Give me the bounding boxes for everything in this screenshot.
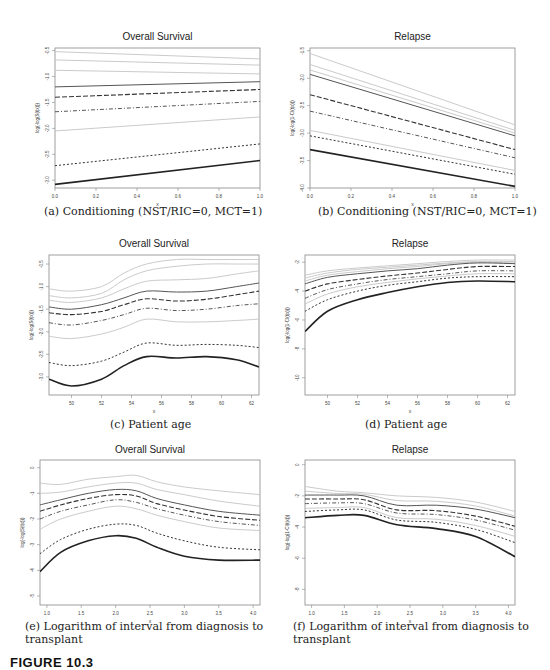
series-line-q1 (40, 475, 260, 495)
chart-svg: Overall Survival50525456586062x-0.5-1.0-… (0, 220, 275, 440)
series-line-q3 (55, 70, 260, 74)
caption-a: (a) Conditioning (NST/RIC=0, MCT=1) (44, 205, 262, 218)
series-line-q3 (310, 70, 515, 133)
y-tick-label: -2 (295, 260, 300, 264)
series-line-q6 (40, 506, 260, 530)
series-line-q2 (49, 264, 259, 298)
y-tick-label: -3 (30, 542, 35, 546)
x-tick-label: 0.4 (389, 194, 396, 199)
y-tick-label: -4 (30, 568, 35, 572)
y-tick-label: -1.0 (39, 282, 44, 290)
series-line-q8 (305, 515, 515, 557)
y-tick-label: -5 (30, 594, 35, 598)
series-line-q4 (310, 74, 515, 135)
series-line-q9 (305, 281, 515, 332)
x-tick-label: 62 (249, 401, 255, 406)
x-tick-label: 0.0 (52, 194, 59, 199)
series-line-q5 (49, 291, 259, 315)
x-tick-label: 1.0 (512, 194, 519, 199)
y-tick-label: -1 (30, 491, 35, 495)
series-line-q6 (305, 271, 515, 299)
y-tick-label: -3.0 (39, 373, 44, 381)
y-tick-label: -3.0 (300, 129, 305, 137)
x-tick-label: 0.6 (430, 194, 437, 199)
chart-panel-b: Relapse0.00.20.40.60.81.0x-1.5-2.0-2.5-3… (275, 0, 550, 220)
x-tick-label: 60 (219, 401, 225, 406)
x-tick-label: 3.0 (440, 611, 447, 616)
y-tick-label: -2 (30, 517, 35, 521)
x-tick-label: 0.8 (216, 194, 223, 199)
y-tick-label: -0.5 (45, 46, 50, 54)
figure-label: FIGURE 10.3 (10, 655, 94, 670)
y-tick-label: -8 (295, 346, 300, 350)
y-tick-label: -4 (295, 525, 300, 529)
y-tick-label: -2.0 (45, 124, 50, 132)
y-tick-label: -1.5 (300, 46, 305, 54)
y-tick-label: -4.0 (300, 184, 305, 192)
series-line-q7 (55, 117, 260, 131)
x-tick-label: 0.4 (134, 194, 141, 199)
series-line-q6 (55, 101, 260, 111)
plot-area (305, 460, 515, 605)
chart-title: Relapse (394, 31, 431, 42)
series-line-q8 (49, 343, 259, 366)
y-tick-label: -6 (295, 556, 300, 560)
series-line-q8 (40, 536, 260, 572)
series-line-q7 (49, 319, 259, 339)
y-tick-label: 0 (295, 463, 300, 466)
x-tick-label: 1.0 (257, 194, 264, 199)
y-tick-label: -2.0 (300, 74, 305, 82)
x-tick-label: 54 (385, 401, 391, 406)
plot-area (40, 460, 260, 605)
y-tick-label: -1.5 (45, 98, 50, 106)
chart-title: Overall Survival (119, 238, 189, 249)
caption-c: (c) Patient age (110, 418, 191, 431)
x-tick-label: 58 (445, 401, 451, 406)
series-line-q1 (310, 53, 515, 124)
series-line-q5 (310, 95, 515, 150)
y-tick-label: -2.5 (45, 150, 50, 158)
x-tick-label: 2.0 (112, 611, 119, 616)
x-tick-label: 52 (355, 401, 361, 406)
y-tick-label: -2.5 (39, 350, 44, 358)
x-tick-label: 60 (475, 401, 481, 406)
x-tick-label: 1.0 (44, 611, 51, 616)
x-tick-label: 0.2 (348, 194, 355, 199)
caption-b: (b) Conditioning (NST/RIC=0, MCT=1) (318, 205, 537, 218)
x-axis-label: x (153, 408, 156, 414)
series-line-q4 (40, 494, 260, 520)
y-axis-label: log(-log(S(t|x))) (29, 309, 34, 340)
y-axis-label: log(-log(1-CI(t|x))) (290, 100, 295, 136)
caption-d: (d) Patient age (365, 418, 447, 431)
y-tick-label: -2.5 (300, 101, 305, 109)
y-tick-label: -0.5 (39, 260, 44, 268)
y-axis-label: log(-log(1-CI(t|x))) (285, 307, 290, 343)
x-tick-label: 50 (325, 401, 331, 406)
x-tick-label: 1.5 (341, 611, 348, 616)
x-tick-label: 2.5 (407, 611, 414, 616)
x-tick-label: 3.0 (181, 611, 188, 616)
series-line-q1 (55, 52, 260, 59)
chart-svg: Relapse0.00.20.40.60.81.0x-1.5-2.0-2.5-3… (275, 0, 550, 220)
x-tick-label: 56 (159, 401, 165, 406)
chart-panel-d: Relapse50525456586062x-2-4-6-8-10log(-lo… (275, 220, 550, 440)
series-line-q4 (55, 82, 260, 87)
series-line-q4 (49, 283, 259, 309)
series-line-q9 (49, 356, 259, 386)
y-tick-label: -6 (295, 317, 300, 321)
y-tick-label: -10 (295, 374, 300, 381)
x-axis-label: x (409, 408, 412, 414)
chart-title: Overall Survival (122, 31, 192, 42)
x-tick-label: 4.0 (505, 611, 512, 616)
y-axis-label: log(-log(S(t|x))) (35, 102, 40, 133)
x-tick-label: 1.5 (78, 611, 85, 616)
y-tick-label: -4 (295, 289, 300, 293)
series-line-q2 (40, 482, 260, 506)
series-line-q5 (55, 89, 260, 97)
x-tick-label: 3.5 (216, 611, 223, 616)
series-line-q9 (55, 161, 260, 185)
x-tick-label: 0.0 (307, 194, 314, 199)
x-tick-label: 50 (69, 401, 75, 406)
chart-panel-c: Overall Survival50525456586062x-0.5-1.0-… (0, 220, 275, 440)
series-line-q7 (310, 130, 515, 170)
